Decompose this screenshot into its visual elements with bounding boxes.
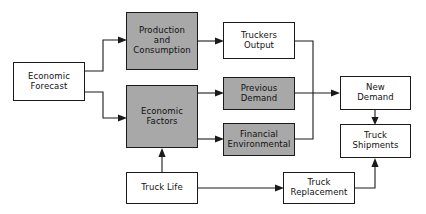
edge-financial-environmental-to-new-demand	[295, 93, 313, 139]
edge-factors-to-previous-demand	[198, 89, 224, 96]
node-label-truckers-output: Truckers Output	[239, 31, 279, 51]
node-label-truck-life: Truck Life	[139, 183, 184, 193]
edge-truckers-output-to-new-demand	[295, 41, 313, 93]
node-economic-factors[interactable]: Economic Factors	[126, 85, 198, 148]
node-truckers-output[interactable]: Truckers Output	[223, 22, 295, 59]
node-label-previous-demand: Previous Demand	[239, 84, 280, 104]
edge-production-to-truckers-output	[198, 37, 224, 44]
edge-forecast-to-factors	[85, 92, 127, 122]
edge-truck-replacement-to-truck-shipments	[355, 158, 379, 188]
edge-forecast-to-production	[85, 36, 127, 71]
edge-truck-life-to-truck-replacement	[198, 184, 284, 191]
node-financial-environmental[interactable]: Financial Environmental	[223, 123, 295, 156]
node-label-new-demand: New Demand	[355, 83, 396, 103]
node-label-production-and-consumption: Production and Consumption	[131, 26, 192, 55]
node-economic-forecast[interactable]: Economic Forecast	[13, 62, 85, 101]
edge-new-demand-to-truck-shipments	[371, 110, 378, 125]
node-label-economic-factors: Economic Factors	[139, 107, 185, 127]
flowchart-canvas: Economic Forecast Production and Consump…	[0, 0, 426, 214]
node-production-and-consumption[interactable]: Production and Consumption	[126, 12, 198, 70]
node-truck-life[interactable]: Truck Life	[126, 172, 198, 204]
node-new-demand[interactable]: New Demand	[340, 76, 411, 110]
node-label-financial-environmental: Financial Environmental	[225, 130, 292, 150]
node-label-truck-replacement: Truck Replacement	[289, 178, 350, 198]
node-label-economic-forecast: Economic Forecast	[26, 72, 72, 92]
edge-previous-demand-to-new-demand	[295, 89, 340, 96]
node-previous-demand[interactable]: Previous Demand	[223, 77, 295, 110]
edge-factors-to-financial-environmental	[198, 135, 224, 142]
node-label-truck-shipments: Truck Shipments	[350, 131, 400, 151]
node-truck-shipments[interactable]: Truck Shipments	[340, 124, 411, 158]
node-truck-replacement[interactable]: Truck Replacement	[283, 172, 355, 204]
edge-truck-life-to-economic-factors	[158, 148, 165, 172]
